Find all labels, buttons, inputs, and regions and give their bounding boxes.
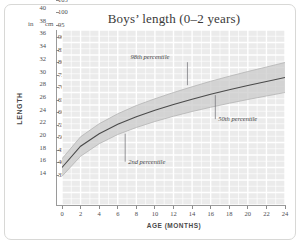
y-tick-label-inch: 24	[34, 106, 46, 113]
tick-mark	[229, 206, 230, 209]
tick-mark	[210, 206, 211, 209]
tick-mark	[62, 206, 63, 209]
tick-mark	[99, 206, 100, 209]
y-tick-label-inch: 36	[34, 29, 46, 36]
x-axis-title: AGE (MONTHS)	[62, 222, 286, 229]
y-tick-label-inch: 30	[34, 68, 46, 75]
chart-title: Boys’ length (0–2 years)	[62, 11, 286, 27]
annotation-50th-percentile: 50th percentile	[218, 115, 257, 122]
y-tick-label-inch: 40	[34, 4, 46, 11]
tick-mark	[173, 206, 174, 209]
y-tick-label-inch: 34	[34, 42, 46, 49]
x-tick-label: 6	[111, 210, 125, 217]
x-tick-label: 8	[129, 210, 143, 217]
x-tick-label: 10	[148, 210, 162, 217]
x-tick-label: 22	[259, 210, 273, 217]
annotation-98th-percentile: 98th percentile	[130, 53, 169, 60]
y-tick-label-inch: 22	[34, 118, 46, 125]
y-axis-ticks: 3540455055606570758085909510010514161820…	[0, 0, 56, 176]
y-tick-label-inch: 32	[34, 55, 46, 62]
y-tick-label-cm: 100	[58, 8, 70, 15]
tick-mark	[80, 206, 81, 209]
tick-mark	[192, 206, 193, 209]
y-tick-label-inch: 20	[34, 131, 46, 138]
y-axis-line	[56, 30, 57, 206]
x-tick-label: 14	[185, 210, 199, 217]
tick-mark	[285, 206, 286, 209]
x-tick-label: 20	[241, 210, 255, 217]
x-tick-label: 2	[74, 210, 88, 217]
y-tick-label-inch: 28	[34, 80, 46, 87]
y-tick-label-inch: 26	[34, 93, 46, 100]
tick-mark	[266, 206, 267, 209]
annotation-2nd-percentile: 2nd percentile	[128, 158, 165, 165]
x-axis-ticks: 024681012141618202224	[56, 206, 286, 220]
y-tick-label-inch: 38	[34, 17, 46, 24]
y-tick-label-inch: 18	[34, 144, 46, 151]
tick-mark	[136, 206, 137, 209]
y-tick-label-cm: 95	[58, 21, 70, 28]
y-tick-label-cm: 105	[58, 0, 70, 3]
tick-mark	[247, 206, 248, 209]
x-tick-label: 0	[55, 210, 69, 217]
x-tick-label: 12	[167, 210, 181, 217]
x-tick-label: 18	[222, 210, 236, 217]
y-tick-label-inch: 14	[34, 169, 46, 176]
growth-chart-figure: Boys’ length (0–2 years) in cm LENGTH AG…	[0, 0, 300, 244]
x-tick-label: 16	[204, 210, 218, 217]
tick-mark	[117, 206, 118, 209]
x-tick-label: 4	[92, 210, 106, 217]
tick-mark	[154, 206, 155, 209]
y-tick-label-inch: 16	[34, 156, 46, 163]
x-tick-label: 24	[278, 210, 292, 217]
